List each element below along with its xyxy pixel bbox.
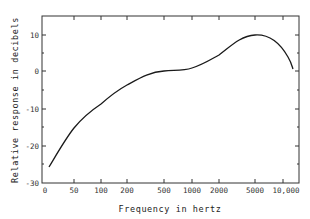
y-tick-label: -20 (25, 142, 39, 151)
y-tick-label: 10 (30, 31, 40, 40)
plot-frame (42, 16, 299, 183)
x-tick-label: 50 (69, 186, 79, 195)
response-curve (49, 35, 293, 167)
x-tick-label: 10,000 (272, 186, 300, 195)
x-tick-label: 500 (157, 186, 171, 195)
x-axis-title: Frequency in hertz (119, 204, 222, 214)
x-tick-label: 5000 (246, 186, 265, 195)
x-tick-label: 2000 (210, 186, 229, 195)
y-tick-label: -30 (25, 179, 39, 188)
y-ticks (42, 35, 299, 164)
x-tick-label: 0 (43, 186, 48, 195)
x-tick-label: 100 (94, 186, 108, 195)
x-tick-label: 1000 (183, 186, 202, 195)
y-axis-title: Relative response in decibels (10, 17, 20, 183)
x-tick-label: 200 (120, 186, 134, 195)
y-tick-label: -10 (25, 105, 39, 114)
y-tick-label: 0 (34, 67, 39, 76)
response-chart: 10 0 -10 -20 -30 0 50 100 200 500 1000 2… (0, 0, 310, 219)
